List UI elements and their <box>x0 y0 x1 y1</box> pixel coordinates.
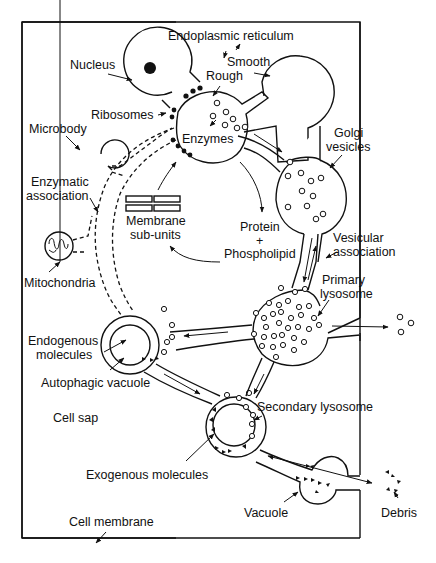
label-endoplasmic-reticulum: Endoplasmic reticulum <box>168 29 294 43</box>
label-plus: + <box>256 234 263 248</box>
label-enzymatic-association: association <box>26 189 89 203</box>
label-protein: Protein <box>240 220 280 234</box>
label-membrane: Membrane <box>126 214 186 228</box>
label-cell-membrane: Cell membrane <box>69 515 154 529</box>
label-endogenous: Endogenous <box>28 334 98 348</box>
labels: Endoplasmic reticulum Smooth Rough Nucle… <box>24 29 417 529</box>
label-golgi: Golgi <box>334 126 363 140</box>
label-primary: Primary <box>322 273 366 287</box>
label-microbody: Microbody <box>29 122 87 136</box>
mitochondria <box>45 216 92 260</box>
label-enzymes: Enzymes <box>182 132 233 146</box>
debris-particles <box>385 470 401 493</box>
membrane-sub-units <box>126 196 180 211</box>
label-vesicular: Vesicular <box>333 231 384 245</box>
label-golgi-vesicles: vesicles <box>326 140 370 154</box>
vacuole <box>256 450 372 504</box>
label-sub-units: sub-units <box>130 228 181 242</box>
nucleolus-icon <box>144 62 156 74</box>
lysosome-autophagic-channel <box>170 325 254 350</box>
label-secondary-lysosome: Secondary lysosome <box>257 400 373 414</box>
label-autophagic-vacuole: Autophagic vacuole <box>41 376 150 390</box>
label-enzymatic: Enzymatic <box>31 175 89 189</box>
lysosome-pathway-diagram: Endoplasmic reticulum Smooth Rough Nucle… <box>0 0 436 563</box>
label-phospholipid: Phospholipid <box>224 247 296 261</box>
label-primary-lysosome: lysosome <box>320 287 373 301</box>
label-mitochondria: Mitochondria <box>24 276 96 290</box>
label-vesicular-association: association <box>333 245 396 259</box>
autophagic-vacuole <box>101 306 175 374</box>
label-nucleus: Nucleus <box>70 58 115 72</box>
label-cell-sap: Cell sap <box>53 411 98 425</box>
label-ribosomes: Ribosomes <box>91 108 154 122</box>
label-smooth: Smooth <box>227 55 270 69</box>
autophagic-secondary-channel <box>144 364 220 404</box>
label-exogenous-molecules: Exogenous molecules <box>86 468 208 482</box>
golgi-lysosome-channel <box>292 234 318 290</box>
label-debris: Debris <box>381 506 417 520</box>
label-rough: Rough <box>206 69 243 83</box>
label-endogenous-molecules: molecules <box>36 348 92 362</box>
label-vacuole: Vacuole <box>244 506 288 520</box>
